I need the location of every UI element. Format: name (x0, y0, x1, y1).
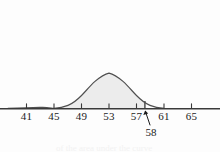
annotation-arrow-58 (143, 111, 150, 126)
tick-label-49: 49 (76, 110, 87, 122)
figure-container: 41 45 49 53 57 61 65 58 of the area unde… (0, 0, 220, 152)
tick-label-57: 57 (131, 110, 142, 122)
tick-label-61: 61 (158, 110, 169, 122)
page-bleed-text: of the area under the curve (56, 143, 152, 152)
tick-label-53: 53 (103, 110, 114, 122)
tick-label-45: 45 (48, 110, 59, 122)
normal-distribution-chart (0, 0, 220, 152)
tick-label-41: 41 (21, 110, 32, 122)
tick-label-65: 65 (186, 110, 197, 122)
annotation-label-58: 58 (146, 126, 157, 138)
